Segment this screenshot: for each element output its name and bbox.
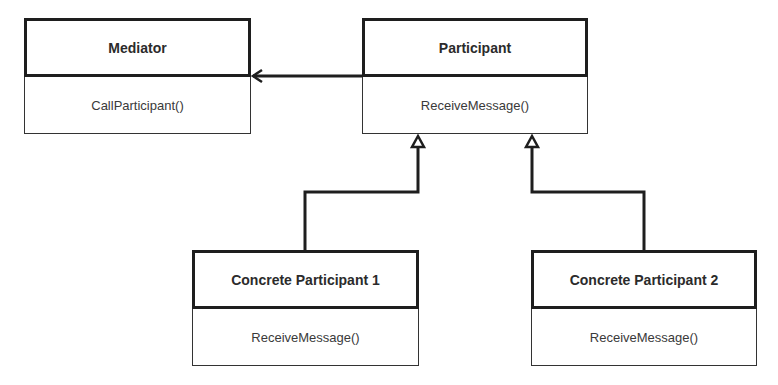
generalization-arrow-1 xyxy=(305,136,424,250)
class-method: ReceiveMessage() xyxy=(362,77,588,134)
class-concrete-participant-2[interactable]: Concrete Participant 2 ReceiveMessage() xyxy=(531,250,757,366)
class-name: Participant xyxy=(362,18,588,77)
association-arrow xyxy=(253,70,362,82)
class-mediator[interactable]: Mediator CallParticipant() xyxy=(24,18,251,134)
class-name: Concrete Participant 1 xyxy=(192,250,419,309)
class-method: ReceiveMessage() xyxy=(192,309,419,366)
class-participant[interactable]: Participant ReceiveMessage() xyxy=(362,18,588,134)
generalization-arrow-2 xyxy=(526,136,644,250)
class-method: ReceiveMessage() xyxy=(531,309,757,366)
class-name: Mediator xyxy=(24,18,251,77)
class-concrete-participant-1[interactable]: Concrete Participant 1 ReceiveMessage() xyxy=(192,250,419,366)
class-name: Concrete Participant 2 xyxy=(531,250,757,309)
class-method: CallParticipant() xyxy=(24,77,251,134)
